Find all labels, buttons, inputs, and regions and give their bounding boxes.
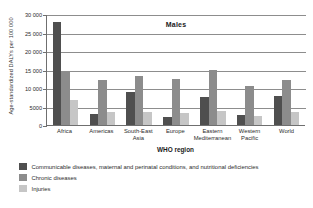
- bar-groups: [47, 15, 305, 125]
- bar: [107, 112, 116, 125]
- bar-group: [84, 15, 121, 125]
- bar: [172, 79, 181, 125]
- bar-group: [231, 15, 268, 125]
- bar: [126, 92, 135, 125]
- bar: [291, 112, 300, 125]
- bar: [180, 113, 189, 125]
- x-axis-title: WHO region: [46, 146, 305, 153]
- bar: [237, 115, 246, 125]
- legend-item: Chronic diseases: [19, 172, 309, 183]
- bar: [217, 111, 226, 125]
- bar: [274, 96, 283, 125]
- bar-group: [194, 15, 231, 125]
- x-axis-tick-label: Americas: [83, 128, 120, 142]
- y-axis-title: Age-standardized DALYs per 100 000: [8, 6, 14, 126]
- x-axis-tick-label: World: [268, 128, 305, 142]
- bar-group: [268, 15, 305, 125]
- legend-swatch: [19, 185, 27, 193]
- legend-item: Injuries: [19, 183, 309, 194]
- bar: [282, 80, 291, 126]
- bar: [200, 97, 209, 125]
- y-axis-tick-label: 20 000: [25, 49, 42, 55]
- chart-legend: Communicable diseases, maternal and peri…: [19, 161, 309, 194]
- legend-swatch: [19, 163, 27, 171]
- bar-group: [47, 15, 84, 125]
- y-axis-tick-label: 10 000: [25, 86, 42, 92]
- x-axis-tick-label: EasternMediterranean: [194, 128, 231, 142]
- bar-group: [158, 15, 195, 125]
- bar: [98, 80, 107, 125]
- y-axis-tick-label: 5000: [30, 105, 42, 111]
- x-axis-tick-labels: AfricaAmericasSouth-EastAsiaEuropeEaster…: [46, 128, 305, 142]
- x-axis-tick-label: Europe: [157, 128, 194, 142]
- legend-label: Injuries: [32, 186, 51, 192]
- bar: [245, 86, 254, 125]
- x-axis-tick-label: Africa: [46, 128, 83, 142]
- legend-item: Communicable diseases, maternal and peri…: [19, 161, 309, 172]
- y-axis-tick-label: 30 000: [25, 12, 42, 18]
- y-axis-tick: [43, 126, 47, 127]
- bar: [61, 72, 70, 125]
- bar: [254, 116, 263, 125]
- x-axis-tick-label: WesternPacific: [231, 128, 268, 142]
- bar-group: [121, 15, 158, 125]
- bar: [53, 22, 62, 125]
- legend-swatch: [19, 174, 27, 182]
- bar: [135, 76, 144, 125]
- plot-area: Males 0500010 00015 00020 00025 00030 00…: [46, 15, 305, 126]
- bar: [90, 114, 99, 125]
- bar: [163, 117, 172, 126]
- bar: [209, 70, 218, 125]
- y-axis-tick-label: 0: [39, 123, 42, 129]
- y-axis-tick-label: 15 000: [25, 68, 42, 74]
- y-axis-tick-label: 25 000: [25, 31, 42, 37]
- bar: [143, 112, 152, 125]
- legend-label: Chronic diseases: [32, 175, 77, 181]
- chart-figure: Age-standardized DALYs per 100 000 Males…: [0, 0, 313, 208]
- bar: [70, 100, 79, 125]
- x-axis-tick-label: South-EastAsia: [120, 128, 157, 142]
- legend-label: Communicable diseases, maternal and peri…: [32, 164, 259, 170]
